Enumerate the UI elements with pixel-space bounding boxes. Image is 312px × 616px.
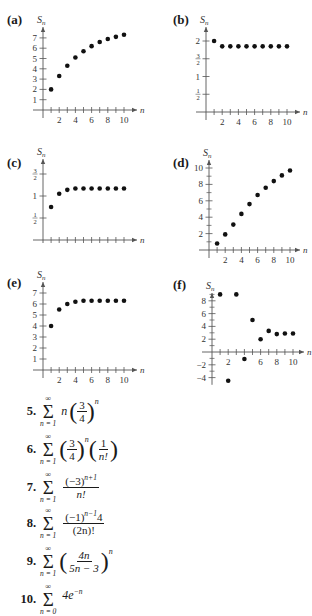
y-tick-label: 2 xyxy=(196,36,201,46)
exercise-number: 9. xyxy=(14,554,36,569)
chart-panel-c: (c) 24681012132Snn xyxy=(0,125,156,245)
data-point xyxy=(215,241,220,246)
data-point xyxy=(122,186,127,191)
exercise-10: 10. ∞ Σ n = 0 4e−n xyxy=(14,583,82,616)
y-tick-label: 2 xyxy=(202,334,207,344)
data-point xyxy=(263,185,268,190)
sigma-sum: ∞ Σ n = 1 xyxy=(40,507,56,540)
svg-text:2: 2 xyxy=(33,174,36,181)
y-axis-arrow-icon xyxy=(210,293,214,298)
x-tick-label: 8 xyxy=(106,375,111,385)
data-point xyxy=(81,49,86,54)
sigma-icon: Σ xyxy=(43,441,54,458)
data-point xyxy=(234,292,239,297)
y-tick-label: 7 xyxy=(33,288,38,298)
data-point xyxy=(65,188,70,193)
data-point xyxy=(81,186,86,191)
x-tick-label: 2 xyxy=(223,255,228,265)
data-point xyxy=(89,44,94,49)
y-tick-label: 6 xyxy=(202,309,207,319)
exercise-9: 9. ∞ Σ n = 1 ( 4n5n − 3 ) n xyxy=(14,545,113,578)
y-axis-title: Sn xyxy=(37,269,46,282)
data-point xyxy=(114,298,119,303)
x-axis-title: n xyxy=(140,235,145,245)
data-point xyxy=(247,202,252,207)
data-point xyxy=(122,33,127,38)
chart-panel-b: (b) 246810121322Snn xyxy=(156,0,312,125)
y-tick-label: 2 xyxy=(33,84,38,94)
panel-label-f: (f) xyxy=(173,277,186,293)
y-axis-arrow-icon xyxy=(204,27,208,32)
panel-label-a: (a) xyxy=(7,12,22,28)
x-tick-label: 6 xyxy=(89,375,94,385)
exercise-6: 6. ∞ Σ n = 1 ( 34 ) n ( 1n! ) xyxy=(14,433,118,466)
sigma-icon: Σ xyxy=(43,515,54,532)
svg-text:2: 2 xyxy=(196,94,199,101)
data-point xyxy=(49,205,54,210)
y-tick-label: 4 xyxy=(33,64,38,74)
x-tick-label: 10 xyxy=(120,375,130,385)
x-axis-arrow-icon xyxy=(132,238,137,242)
exercise-number: 10. xyxy=(14,592,36,607)
data-point xyxy=(73,186,78,191)
exercise-number: 8. xyxy=(14,516,36,531)
exercise-number: 5. xyxy=(14,404,36,419)
svg-text:2: 2 xyxy=(33,218,36,225)
y-axis-title: Sn xyxy=(203,147,212,160)
x-tick-label: 6 xyxy=(255,255,260,265)
data-point xyxy=(122,298,127,303)
x-tick-label: 8 xyxy=(106,115,111,125)
data-point xyxy=(250,318,255,323)
y-tick-label: 7 xyxy=(33,33,38,43)
exercise-number: 7. xyxy=(14,480,36,495)
sigma-icon: Σ xyxy=(43,403,54,420)
chart-panel-e: (e) 2468101234567Snn xyxy=(0,245,156,385)
y-tick-label: 6 xyxy=(33,43,38,53)
data-point xyxy=(106,186,111,191)
x-tick-label: 10 xyxy=(283,117,293,125)
data-point xyxy=(89,186,94,191)
data-point xyxy=(114,35,119,40)
data-point xyxy=(57,192,62,197)
x-axis-title: n xyxy=(140,365,145,375)
data-point xyxy=(49,87,54,92)
y-tick-label: 1 xyxy=(33,95,38,105)
y-tick-label: 8 xyxy=(202,296,207,306)
chart-panel-d: (d) 246810246810Snn xyxy=(156,125,312,265)
y-tick-label: 6 xyxy=(33,299,38,309)
data-point xyxy=(226,379,231,384)
y-tick-label: 12 xyxy=(196,87,201,101)
y-axis-arrow-icon xyxy=(207,160,211,165)
x-tick-label: 2 xyxy=(57,375,62,385)
y-tick-label: 12 xyxy=(33,211,38,225)
x-tick-label: 10 xyxy=(286,255,296,265)
y-axis-title: Sn xyxy=(37,146,46,159)
svg-text:3: 3 xyxy=(196,52,199,59)
data-point xyxy=(97,298,102,303)
data-point xyxy=(89,298,94,303)
data-point xyxy=(277,44,282,49)
data-point xyxy=(236,44,241,49)
x-tick-label: 10 xyxy=(289,357,299,367)
y-tick-label: 1 xyxy=(33,354,38,364)
data-point xyxy=(97,186,102,191)
data-point xyxy=(228,44,233,49)
data-point xyxy=(57,307,62,312)
x-axis-title: n xyxy=(307,347,312,357)
x-tick-label: 4 xyxy=(239,255,244,265)
data-point xyxy=(275,332,280,337)
data-point xyxy=(269,44,274,49)
exercise-8: 8. ∞ Σ n = 1 (−1)n−14 (2n)! xyxy=(14,507,104,540)
x-axis-arrow-icon xyxy=(132,368,137,372)
x-tick-label: 10 xyxy=(120,115,130,125)
x-tick-label: 6 xyxy=(89,115,94,125)
y-tick-label: 32 xyxy=(33,167,38,181)
data-point xyxy=(266,329,271,334)
data-point xyxy=(97,40,102,45)
sigma-icon: Σ xyxy=(43,591,54,608)
data-point xyxy=(280,173,285,178)
data-point xyxy=(231,222,236,227)
y-axis-arrow-icon xyxy=(41,282,45,287)
data-point xyxy=(260,44,265,49)
x-tick-label: 6 xyxy=(252,117,257,125)
